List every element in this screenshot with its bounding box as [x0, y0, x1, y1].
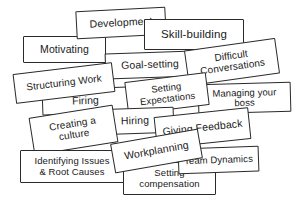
topic-card-label: Managing your boss: [202, 87, 288, 110]
topic-card-label: Structuring Work: [18, 72, 111, 94]
topic-card-label: Workplanning: [116, 138, 198, 163]
topic-card-identifying-issues[interactable]: Identifying Issues & Root Causes: [20, 150, 124, 183]
topic-card-label: Setting Expectations: [129, 79, 205, 108]
topic-card-label: Goal-setting: [109, 58, 191, 72]
topic-card-label: Skill-building: [148, 28, 240, 40]
topic-card-label: Identifying Issues & Root Causes: [24, 156, 120, 177]
topic-card-label: Creating a culture: [34, 113, 113, 146]
topic-card-motivating[interactable]: Motivating: [23, 36, 106, 63]
topic-cards-canvas: DevelopmentMotivatingSkill-buildingGoal-…: [0, 0, 296, 201]
topic-card-label: Motivating: [27, 44, 102, 55]
